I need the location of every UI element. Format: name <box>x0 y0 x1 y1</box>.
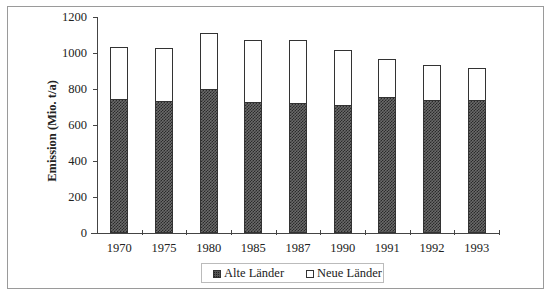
x-tick-label: 1985 <box>241 241 266 256</box>
legend-item-alte-laender: Alte Länder <box>213 266 284 281</box>
y-tick <box>93 161 98 162</box>
bar-segment-alte-laender <box>423 100 441 233</box>
x-axis <box>91 233 500 234</box>
bar-1991 <box>378 59 396 233</box>
x-tick <box>320 230 321 235</box>
bar-segment-neue-laender <box>468 68 486 101</box>
bar-segment-neue-laender <box>155 48 173 102</box>
x-tick <box>276 230 277 235</box>
bar-segment-alte-laender <box>468 100 486 233</box>
legend-label: Neue Länder <box>317 266 382 281</box>
bar-segment-neue-laender <box>110 47 128 100</box>
bar-1990 <box>334 50 352 233</box>
bar-segment-neue-laender <box>244 40 262 103</box>
bar-segment-neue-laender <box>423 65 441 101</box>
bar-segment-alte-laender <box>289 103 307 233</box>
y-tick <box>93 53 98 54</box>
bar-segment-neue-laender <box>289 40 307 104</box>
y-tick <box>93 197 98 198</box>
x-tick-label: 1992 <box>420 241 445 256</box>
x-tick <box>186 230 187 235</box>
dark-square-icon <box>213 270 221 278</box>
bar-segment-alte-laender <box>334 105 352 233</box>
bar-1970 <box>110 47 128 233</box>
x-tick <box>231 230 232 235</box>
y-tick-label: 200 <box>68 190 87 205</box>
bar-segment-alte-laender <box>155 101 173 233</box>
bar-1980 <box>200 33 218 233</box>
x-tick <box>410 230 411 235</box>
x-tick-label: 1987 <box>286 241 311 256</box>
y-tick-label: 1200 <box>62 10 87 25</box>
bar-1985 <box>244 40 262 233</box>
x-tick-label: 1990 <box>330 241 355 256</box>
bar-segment-neue-laender <box>378 59 396 99</box>
bar-segment-alte-laender <box>378 97 396 233</box>
legend: Alte Länder Neue Länder <box>201 263 384 283</box>
bar-segment-neue-laender <box>334 50 352 106</box>
y-tick-label: 600 <box>68 118 87 133</box>
y-tick-label: 0 <box>81 226 87 241</box>
x-tick <box>454 230 455 235</box>
bar-1987 <box>289 40 307 233</box>
bar-segment-alte-laender <box>110 99 128 233</box>
y-tick <box>93 17 98 18</box>
x-tick <box>365 230 366 235</box>
x-tick-label: 1993 <box>464 241 489 256</box>
legend-item-neue-laender: Neue Länder <box>306 266 382 281</box>
x-tick <box>499 230 500 235</box>
x-tick-label: 1970 <box>107 241 132 256</box>
bar-1992 <box>423 65 441 233</box>
y-tick <box>93 125 98 126</box>
y-tick <box>93 233 98 234</box>
y-tick <box>93 89 98 90</box>
x-tick-label: 1975 <box>152 241 177 256</box>
legend-label: Alte Länder <box>224 266 284 281</box>
bar-1975 <box>155 48 173 233</box>
bar-segment-alte-laender <box>200 89 218 233</box>
y-axis-label: Emission (Mio. t/a) <box>45 80 60 182</box>
x-tick <box>142 230 143 235</box>
bar-segment-alte-laender <box>244 102 262 233</box>
bar-1993 <box>468 68 486 233</box>
y-tick-label: 400 <box>68 154 87 169</box>
x-tick-label: 1991 <box>375 241 400 256</box>
bar-segment-neue-laender <box>200 33 218 91</box>
x-tick-label: 1980 <box>196 241 221 256</box>
y-tick-label: 800 <box>68 82 87 97</box>
white-square-icon <box>306 270 314 278</box>
y-tick-label: 1000 <box>62 46 87 61</box>
